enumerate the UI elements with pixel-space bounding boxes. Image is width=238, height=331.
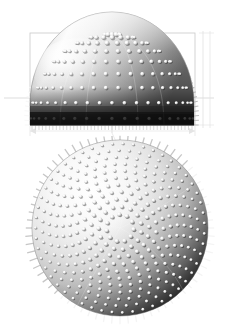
spine [72,145,76,153]
spine [176,154,182,161]
spine [112,315,113,324]
plan-view [25,136,214,324]
dome-base-shadow [28,106,196,126]
dome-highlight [34,38,122,106]
spine [65,149,70,157]
spine [26,243,35,245]
side-elevation-view [24,12,199,130]
drawing-canvas: Sea urchin test — orthographic technical… [0,0,238,331]
spine [204,251,213,253]
spine [24,115,30,116]
spine [202,258,211,261]
spine [199,265,207,269]
spine [58,154,64,161]
spine [30,258,39,261]
spine [27,251,36,253]
technical-drawing-svg [0,0,238,331]
spine [164,145,168,153]
spine [33,265,41,269]
spine [128,315,129,324]
spine [206,243,215,245]
spine [170,149,175,157]
